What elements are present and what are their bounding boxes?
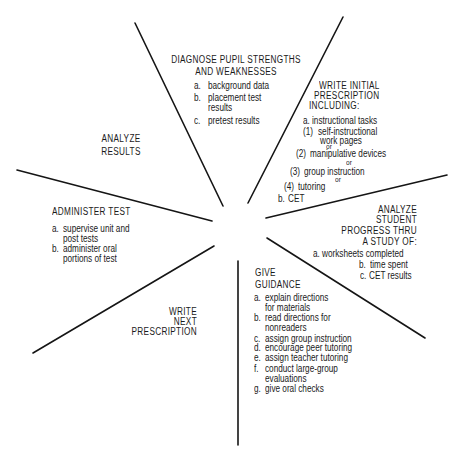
instruction-cycle-diagram: DIAGNOSE PUPIL STRENGTHS AND WEAKNESSES …	[0, 0, 465, 462]
sector-analyze-results: ANALYZE RESULTS	[0, 0, 465, 462]
sector-title: ANALYZE	[31, 133, 211, 144]
sector-title: RESULTS	[31, 146, 211, 157]
